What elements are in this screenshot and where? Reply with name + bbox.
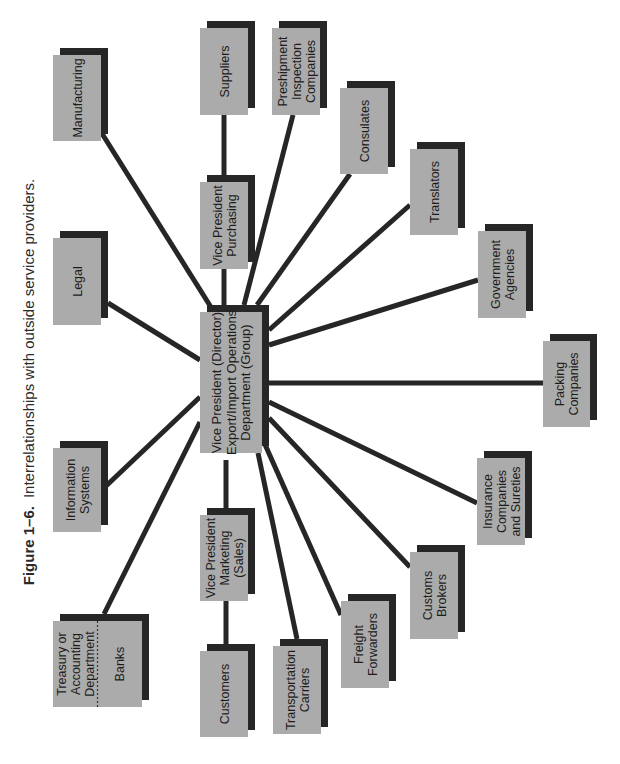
box-insurance-companies-sureties: InsuranceCompaniesand Sureties [477, 451, 532, 545]
box-label-line: Vice President [211, 185, 225, 266]
connector-legal [108, 303, 200, 360]
box-consulates: Consulates [340, 81, 395, 174]
box-label-line: Carriers [298, 668, 312, 712]
connector-transportation-carriers [258, 453, 297, 639]
box-customers: Customers [200, 644, 255, 737]
box-label-line: Manufacturing [71, 58, 85, 137]
box-transportation-carriers: TransportationCarriers [273, 639, 328, 734]
box-label-line: Department (Group) [238, 324, 253, 440]
box-label: Translators [428, 161, 442, 223]
connector-lines [101, 115, 543, 644]
box-label-line: (Sales) [232, 538, 246, 578]
box-label: Suppliers [218, 45, 232, 97]
box-label: CustomsBrokers [421, 571, 449, 620]
box-label-line: Suppliers [218, 45, 232, 97]
box-label: Consulates [358, 100, 372, 163]
box-packing-companies: PackingCompanies [543, 334, 597, 427]
box-label: PackingCompanies [553, 352, 581, 415]
box-label-line: Agencies [503, 249, 517, 300]
box-label: Manufacturing [71, 58, 85, 137]
diagram-boxes: ManufacturingSuppliersPreshipmentInspect… [53, 21, 597, 737]
box-suppliers: Suppliers [200, 21, 255, 115]
box-label-line: Government [489, 240, 503, 309]
box-translators: Translators [410, 142, 465, 235]
box-label-line: Customs [421, 571, 435, 620]
box-freight-forwarders: FreightForwarders [341, 594, 396, 688]
box-information-systems: InformationSystems [53, 441, 108, 532]
box-label: Treasury orAccountingDepartment [55, 631, 97, 697]
box-label-line: Export/Import Operations [224, 309, 239, 455]
box-label-line: Accounting [69, 633, 83, 695]
box-label: InsuranceCompaniesand Sureties [481, 466, 523, 536]
box-label-line: Transportation [284, 650, 298, 730]
box-preshipment-inspection-companies: PreshipmentInspectionCompanies [272, 21, 327, 115]
connector-government-agencies [269, 280, 478, 345]
box-label-line: Preshipment [276, 36, 290, 107]
box-center-export-import-dept: Vice President (Director)Export/Import O… [200, 305, 269, 455]
box-label-line: Inspection [290, 43, 304, 100]
box-label: Vice President (Director)Export/Import O… [209, 309, 253, 455]
box-label-line: Freight [352, 625, 366, 664]
box-label-line: Companies [567, 352, 581, 415]
box-label-line: Marketing [218, 531, 232, 586]
box-label-line: Legal [71, 266, 85, 297]
box-label-line: Department [83, 631, 97, 697]
box-label-line: Forwarders [366, 613, 380, 676]
box-label-line: Companies [495, 470, 509, 533]
box-label-line: Translators [428, 161, 442, 223]
box-treasury-banks: Treasury orAccountingDepartmentBanks [53, 614, 149, 707]
box-customs-brokers: CustomsBrokers [410, 545, 465, 639]
connector-treasury-banks [104, 422, 200, 614]
box-label-line: Vice President [204, 517, 218, 598]
box-government-agencies: GovernmentAgencies [478, 224, 533, 318]
box-label-line: Companies [304, 40, 318, 103]
box-label-line: Purchasing [225, 194, 239, 257]
box-label-line: Customers [218, 664, 232, 724]
box-label: InformationSystems [64, 459, 92, 522]
org-diagram: ManufacturingSuppliersPreshipmentInspect… [0, 0, 620, 764]
box-label: Legal [71, 266, 85, 297]
connector-manufacturing [101, 132, 214, 312]
box-label-line: Information [64, 459, 78, 522]
box-label: Vice PresidentPurchasing [211, 185, 239, 266]
connector-translators [269, 205, 410, 330]
box-label-line: Consulates [358, 100, 372, 163]
box-manufacturing: Manufacturing [53, 48, 108, 141]
box-label-line: Treasury or [55, 632, 69, 695]
box-label-line: Brokers [435, 574, 449, 617]
connector-information-systems [106, 397, 200, 486]
banks-label: Banks [113, 647, 127, 682]
box-vp-purchasing: Vice PresidentPurchasing [200, 175, 255, 269]
box-label: Customers [218, 664, 232, 724]
box-label-line: and Sureties [509, 466, 523, 536]
box-label-line: Vice President (Director) [209, 312, 224, 453]
connector-customs-brokers [269, 418, 410, 567]
box-label: PreshipmentInspectionCompanies [276, 36, 318, 107]
box-legal: Legal [53, 231, 108, 325]
box-label: GovernmentAgencies [489, 240, 517, 309]
box-label-line: Systems [78, 466, 92, 514]
box-vp-marketing: Vice PresidentMarketing(Sales) [200, 508, 255, 601]
box-label-line: Insurance [481, 474, 495, 529]
box-label-line: Packing [553, 362, 567, 407]
